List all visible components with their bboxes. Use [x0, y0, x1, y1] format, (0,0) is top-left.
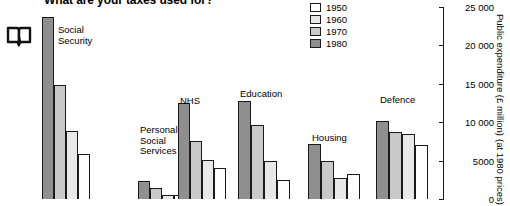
bar-group-label: PersonalSocialServices: [140, 125, 178, 157]
bar-1970: [321, 161, 334, 199]
legend-item: 1950: [310, 2, 347, 13]
bar-1980: [308, 144, 321, 199]
y-axis-tick: [439, 84, 444, 85]
plot-area: SocialSecurityPersonalSocialServicesNHSE…: [40, 0, 432, 206]
legend-item: 1960: [310, 14, 347, 25]
legend-item: 1980: [310, 38, 347, 49]
y-axis-tick-label: 0: [450, 194, 494, 205]
y-axis-title: Public expenditure (£ million) (at 1980 …: [495, 14, 506, 205]
legend-swatch-1980: [310, 39, 321, 48]
bar-1970: [190, 141, 202, 199]
bar-1950: [78, 154, 90, 199]
bar-group-label: SocialSecurity: [58, 25, 92, 46]
y-axis-tick-label: 10 000: [450, 117, 494, 128]
y-axis-tick-label: 20 000: [450, 40, 494, 51]
y-axis-tick-label: 15 000: [450, 78, 494, 89]
y-axis-tick: [439, 7, 444, 8]
y-axis-title-line1: Public expenditure (£ million): [495, 14, 506, 136]
bar-1980: [238, 101, 251, 199]
bar-1950: [347, 174, 360, 199]
legend-swatch-1970: [310, 27, 321, 36]
bar-1980: [376, 121, 389, 199]
y-axis-tick: [439, 45, 444, 46]
bar-group-bars: [238, 7, 290, 199]
bar-1950: [214, 168, 226, 199]
y-axis-line: [443, 7, 444, 199]
bar-group-label: Housing: [312, 133, 347, 144]
legend-item: 1970: [310, 26, 347, 37]
chart-figure: What are your taxes used for? SocialSecu…: [0, 0, 510, 206]
y-axis: Public expenditure (£ million) (at 1980 …: [443, 0, 510, 206]
bar-1960: [66, 131, 78, 199]
open-book-icon: [6, 26, 32, 50]
legend: 1950196019701980: [310, 2, 347, 50]
bar-1950: [415, 145, 428, 199]
y-axis-tick: [439, 161, 444, 162]
y-axis-tick-label: 25 000: [450, 2, 494, 13]
legend-swatch-1950: [310, 3, 321, 12]
legend-label: 1980: [326, 38, 347, 49]
y-axis-tick: [439, 199, 444, 200]
bar-1970: [251, 125, 264, 199]
y-axis-tick-label: 5000: [450, 155, 494, 166]
bar-1970: [54, 85, 66, 199]
legend-label: 1970: [326, 26, 347, 37]
y-axis-title-line2: (at 1980 prices): [495, 139, 506, 205]
bar-1960: [202, 160, 214, 199]
bar-1950: [277, 180, 290, 199]
legend-swatch-1960: [310, 15, 321, 24]
bar-1960: [162, 195, 174, 199]
bar-1960: [264, 161, 277, 199]
bar-1980: [138, 181, 150, 199]
bar-1970: [150, 188, 162, 199]
bar-1980: [178, 103, 190, 199]
bar-group-label: Education: [240, 89, 282, 100]
legend-label: 1950: [326, 2, 347, 13]
bar-1970: [389, 132, 402, 199]
bar-group-label: Defence: [380, 95, 415, 106]
legend-label: 1960: [326, 14, 347, 25]
bar-1960: [402, 134, 415, 199]
bar-1960: [334, 178, 347, 200]
bar-1980: [42, 17, 54, 199]
bar-group-label: NHS: [180, 96, 200, 107]
y-axis-tick: [439, 122, 444, 123]
